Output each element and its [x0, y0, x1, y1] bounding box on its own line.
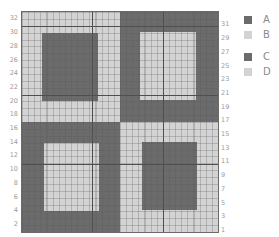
- row-label: 15: [221, 131, 235, 138]
- row-label: 19: [221, 104, 235, 111]
- row-label: 18: [4, 111, 18, 118]
- row-label: 20: [4, 98, 18, 105]
- inner-square-bottom-left: [44, 143, 99, 211]
- row-label: 28: [4, 43, 18, 50]
- row-label: 17: [221, 117, 235, 124]
- legend-swatch-light: [244, 31, 252, 39]
- inner-square-top-right: [140, 32, 196, 100]
- row-label: 6: [4, 194, 18, 201]
- row-label: 31: [221, 21, 235, 28]
- row-label: 25: [221, 63, 235, 70]
- thick-grid-line-horizontal: [22, 26, 218, 27]
- thick-grid-line-vertical: [163, 12, 164, 232]
- legend-label: D: [263, 67, 271, 77]
- row-label: 9: [221, 172, 235, 179]
- row-label: 11: [221, 158, 235, 165]
- row-label: 10: [4, 166, 18, 173]
- legend-swatch-dark: [244, 16, 252, 24]
- row-label: 27: [221, 49, 235, 56]
- row-label: 32: [4, 15, 18, 22]
- row-label: 22: [4, 84, 18, 91]
- row-label: 29: [221, 35, 235, 42]
- row-label: 3: [221, 213, 235, 220]
- row-label: 4: [4, 207, 18, 214]
- legend-item-c: C: [244, 52, 270, 62]
- inner-square-top-left: [42, 33, 98, 101]
- row-label: 30: [4, 29, 18, 36]
- row-label: 2: [4, 221, 18, 228]
- legend-item-a: A: [244, 15, 270, 25]
- row-label: 13: [221, 145, 235, 152]
- row-label: 12: [4, 152, 18, 159]
- row-label: 7: [221, 186, 235, 193]
- row-label: 8: [4, 180, 18, 187]
- pattern-chart: [22, 12, 218, 232]
- thick-grid-line-vertical: [92, 12, 93, 232]
- legend-label: A: [263, 15, 270, 25]
- legend-label: C: [263, 52, 270, 62]
- legend-swatch-dark: [244, 53, 252, 61]
- thick-grid-line-horizontal: [22, 164, 218, 165]
- row-label: 16: [4, 125, 18, 132]
- row-label: 21: [221, 90, 235, 97]
- legend-label: B: [263, 30, 270, 40]
- legend-item-b: B: [244, 30, 270, 40]
- row-label: 5: [221, 200, 235, 207]
- row-label: 1: [221, 227, 235, 234]
- row-label: 23: [221, 76, 235, 83]
- legend-swatch-light: [244, 68, 252, 76]
- row-label: 26: [4, 57, 18, 64]
- thick-grid-line-horizontal: [22, 95, 218, 96]
- row-label: 24: [4, 70, 18, 77]
- row-label: 14: [4, 139, 18, 146]
- inner-square-bottom-right: [142, 142, 197, 210]
- legend-item-d: D: [244, 67, 271, 77]
